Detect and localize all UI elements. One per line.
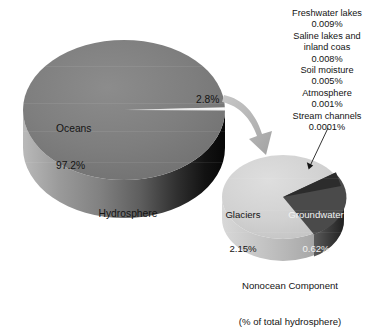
component-label-soil-moisture: Soil moisture — [268, 65, 386, 76]
small-pie-glaciers-name: Glaciers — [212, 209, 274, 220]
small-pie-glaciers-value: 2.15% — [212, 243, 274, 254]
small-pie-caption: Nonocean Component (% of total hydrosphe… — [200, 256, 380, 331]
component-breakdown-list: Freshwater lakes 0.009% Saline lakes and… — [268, 8, 386, 133]
small-pie-caption-line1: Nonocean Component — [200, 280, 380, 292]
small-pie-groundwater-name: Groundwater — [278, 209, 354, 220]
component-label-freshwater-lakes: Freshwater lakes — [268, 8, 386, 19]
component-value-stream-channels: 0.0001% — [268, 122, 386, 133]
main-pie-nonocean-value: 2.8% — [196, 94, 219, 106]
component-label-stream-channels: Stream channels — [268, 111, 386, 122]
component-label-saline-lakes-line1: Saline lakes and — [268, 31, 386, 42]
component-value-saline-lakes: 0.008% — [268, 54, 386, 65]
component-value-atmosphere: 0.001% — [268, 99, 386, 110]
small-pie-groundwater-value: 0.62% — [278, 243, 354, 254]
main-pie-oceans-label: Oceans 97.2% — [56, 99, 92, 196]
main-pie-oceans-value: 97.2% — [56, 160, 92, 172]
main-pie-hydrosphere — [23, 40, 225, 218]
component-label-saline-lakes-line2: inland coas — [268, 42, 386, 53]
component-value-soil-moisture: 0.005% — [268, 76, 386, 87]
main-pie-caption: Hydrosphere — [60, 208, 196, 220]
callout-arrow-icon — [222, 95, 272, 155]
small-pie-caption-line2: (% of total hydrosphere) — [200, 316, 380, 328]
component-value-freshwater-lakes: 0.009% — [268, 19, 386, 30]
component-label-atmosphere: Atmosphere — [268, 88, 386, 99]
main-pie-oceans-name: Oceans — [56, 123, 92, 135]
